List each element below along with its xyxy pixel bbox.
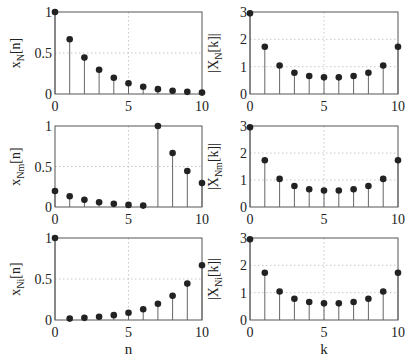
data-point-marker: [81, 197, 88, 204]
data-point-marker: [81, 54, 88, 61]
data-point-marker: [262, 43, 269, 50]
data-point-marker: [140, 202, 147, 209]
subplot-xNm: 051000.51xNm[n]: [8, 119, 209, 227]
data-point-marker: [395, 157, 402, 164]
subplot-XNm: 05100123|XNm[k]|: [206, 119, 405, 227]
y-axis-label: |XN[k]|: [206, 33, 224, 72]
data-point-marker: [306, 73, 313, 80]
x-tick-label: 10: [391, 325, 405, 340]
x-tick-label: 10: [391, 212, 405, 227]
data-point-marker: [66, 36, 73, 43]
stem-plot-figure: 051000.51xN[n]05100123|XN[k]|051000.51xN…: [0, 0, 413, 362]
y-axis-label: xNm[n]: [8, 147, 26, 185]
data-point-marker: [184, 89, 191, 96]
data-point-marker: [350, 299, 357, 306]
data-point-marker: [321, 74, 328, 81]
y-axis-label: |XNi[k]|: [206, 258, 224, 300]
data-point-marker: [380, 288, 387, 295]
x-tick-label: 0: [52, 212, 59, 227]
y-tick-label: 1: [45, 5, 52, 20]
subplot-xN: 051000.51xN[n]: [8, 5, 209, 114]
data-point-marker: [52, 9, 59, 16]
y-tick-label: 2: [240, 32, 247, 47]
x-tick-label: 10: [391, 99, 405, 114]
stem-series: [52, 123, 206, 209]
data-point-marker: [247, 124, 254, 131]
x-tick-label: 5: [125, 212, 132, 227]
grid-lines: [55, 238, 202, 320]
data-point-marker: [169, 150, 176, 157]
y-tick-label: 0: [240, 87, 247, 102]
data-point-marker: [111, 201, 118, 208]
data-point-marker: [247, 10, 254, 17]
x-axis-label: k: [320, 341, 328, 357]
data-point-marker: [291, 69, 298, 76]
y-tick-label: 1: [45, 231, 52, 246]
x-tick-label: 10: [195, 212, 209, 227]
x-tick-label: 5: [321, 325, 328, 340]
y-tick-label: 0.5: [35, 46, 53, 61]
data-point-marker: [155, 300, 162, 307]
data-point-marker: [321, 300, 328, 307]
subplot-xNi: 051000.51xNi[n]n: [8, 231, 209, 357]
data-point-marker: [336, 74, 343, 81]
y-tick-label: 2: [240, 258, 247, 273]
data-point-marker: [199, 262, 206, 269]
data-point-marker: [291, 183, 298, 190]
data-point-marker: [199, 89, 206, 96]
stem-series: [247, 124, 402, 207]
subplot-XN: 05100123|XN[k]|: [206, 5, 405, 114]
grid-lines: [55, 126, 202, 207]
y-tick-label: 1: [240, 286, 247, 301]
y-axis-label: |XNm[k]|: [206, 143, 224, 190]
data-point-marker: [52, 235, 59, 242]
x-tick-label: 5: [321, 212, 328, 227]
x-tick-label: 5: [125, 99, 132, 114]
y-tick-label: 3: [240, 231, 247, 246]
data-point-marker: [321, 187, 328, 194]
data-point-marker: [125, 80, 132, 87]
data-point-marker: [140, 83, 147, 90]
data-point-marker: [395, 269, 402, 276]
y-axis-label: xNi[n]: [8, 262, 26, 295]
data-point-marker: [140, 306, 147, 313]
data-point-marker: [169, 88, 176, 95]
data-point-marker: [336, 300, 343, 307]
data-point-marker: [66, 193, 73, 200]
data-point-marker: [155, 86, 162, 93]
data-point-marker: [125, 309, 132, 316]
data-point-marker: [52, 188, 59, 195]
y-tick-label: 1: [240, 60, 247, 75]
y-tick-label: 1: [45, 119, 52, 134]
data-point-marker: [111, 312, 118, 319]
x-tick-label: 0: [247, 99, 254, 114]
subplot-XNi: 05100123|XNi[k]|k: [206, 231, 405, 357]
data-point-marker: [291, 295, 298, 302]
y-tick-label: 3: [240, 119, 247, 134]
data-point-marker: [262, 269, 269, 276]
y-tick-label: 0: [45, 313, 52, 328]
x-tick-label: 0: [247, 212, 254, 227]
y-tick-label: 0: [240, 200, 247, 215]
y-tick-label: 1: [240, 173, 247, 188]
data-point-marker: [111, 74, 118, 81]
data-point-marker: [306, 299, 313, 306]
x-tick-label: 5: [125, 325, 132, 340]
y-tick-label: 2: [240, 146, 247, 161]
data-point-marker: [184, 168, 191, 175]
data-point-marker: [169, 292, 176, 299]
data-point-marker: [96, 199, 103, 206]
data-point-marker: [365, 183, 372, 190]
data-point-marker: [262, 157, 269, 164]
y-tick-label: 0: [45, 200, 52, 215]
data-point-marker: [276, 62, 283, 69]
y-tick-label: 0: [45, 87, 52, 102]
y-axis-label: xN[n]: [8, 38, 26, 69]
data-point-marker: [365, 69, 372, 76]
data-point-marker: [350, 73, 357, 80]
data-point-marker: [306, 186, 313, 193]
data-point-marker: [199, 180, 206, 187]
data-point-marker: [336, 187, 343, 194]
data-point-marker: [184, 280, 191, 287]
x-tick-label: 0: [52, 99, 59, 114]
